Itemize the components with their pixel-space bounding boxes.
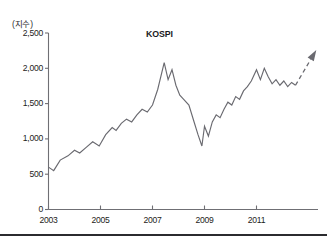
kospi-chart-figure: (지수) KOSPI 05001,0001,5002,0002,500 2003… xyxy=(0,0,327,244)
x-axis-tick-marks xyxy=(49,206,257,210)
kospi-series-line xyxy=(49,63,296,171)
forecast-dashed-line xyxy=(296,59,311,85)
y-axis-tick-label: 2,000 xyxy=(7,63,43,73)
y-axis-tick-label: 2,500 xyxy=(7,28,43,38)
x-axis-tick-label: 2007 xyxy=(133,215,173,225)
y-axis-tick-label: 1,000 xyxy=(7,133,43,143)
x-axis-tick-label: 2005 xyxy=(81,215,121,225)
chart-plot-area xyxy=(0,0,327,244)
y-axis-tick-label: 1,500 xyxy=(7,98,43,108)
figure-bottom-rule xyxy=(0,234,327,236)
x-axis-tick-label: 2011 xyxy=(237,215,277,225)
x-axis-tick-label: 2003 xyxy=(29,215,69,225)
y-axis-tick-label: 500 xyxy=(7,169,43,179)
x-axis-tick-label: 2009 xyxy=(185,215,225,225)
forecast-arrowhead-icon xyxy=(308,50,317,61)
y-axis-tick-label: 0 xyxy=(7,204,43,214)
